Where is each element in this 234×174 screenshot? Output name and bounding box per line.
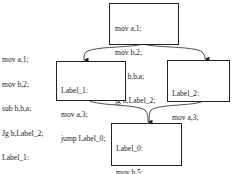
block-entry: mov a,1; mov b,2; sub b,b,a; jg b,Label_… xyxy=(109,3,179,45)
block-line: Label_0: xyxy=(116,145,143,153)
block-line: Label_2: xyxy=(172,90,199,98)
block-line: jump Label_0; xyxy=(61,135,106,143)
block-line: mov b,5; xyxy=(116,169,143,174)
block-line: mov a,3; xyxy=(61,111,106,119)
block-label2: Label_2: mov a,3; xyxy=(167,60,230,102)
block-label1: Label_1: mov a,3; jump Label_0; xyxy=(56,61,126,101)
block-label0: Label_0: mov b,5; mov b,6; ret xyxy=(111,123,182,166)
block-line: mov a,1; xyxy=(115,25,156,33)
block-line: Label_1: xyxy=(61,87,106,95)
block-line: mov a,3; xyxy=(172,114,199,122)
block-line: mov b,2; xyxy=(115,49,156,57)
